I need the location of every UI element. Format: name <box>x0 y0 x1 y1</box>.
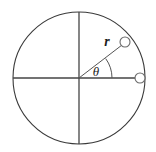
polar-circle-diagram: r θ <box>0 0 156 152</box>
axis-endpoint-marker <box>135 73 145 83</box>
angle-arc <box>106 59 112 78</box>
radius-label: r <box>104 34 110 49</box>
angle-label: θ <box>93 64 100 79</box>
diagram-canvas: r θ <box>0 0 156 152</box>
radius-endpoint-marker <box>120 37 130 47</box>
radius-line <box>79 45 122 78</box>
